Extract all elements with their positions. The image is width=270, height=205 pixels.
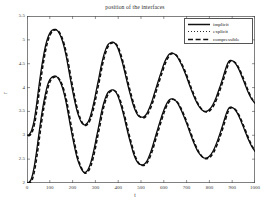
legend-label-compressible: compressible — [213, 37, 239, 42]
legend-item-implicit: implicit — [188, 21, 249, 28]
chart-figure: position of the interfaces 22.533.544.55… — [0, 0, 270, 205]
y-axis-label: r — [2, 92, 8, 94]
legend-swatch-dotted — [188, 28, 210, 35]
x-tick-label: 200 — [63, 185, 83, 190]
y-tick-label: 5 — [9, 37, 25, 42]
x-tick-label: 900 — [222, 185, 242, 190]
x-tick-label: 500 — [131, 185, 151, 190]
legend-label-explicit: explicit — [213, 29, 228, 34]
x-tick-label: 1000 — [245, 185, 265, 190]
y-tick-label: 5.5 — [9, 13, 25, 18]
y-tick-label: 3.5 — [9, 108, 25, 113]
y-tick-label: 2.5 — [9, 156, 25, 161]
legend-item-explicit: explicit — [188, 28, 249, 35]
x-tick-label: 300 — [85, 185, 105, 190]
x-tick-label: 600 — [154, 185, 174, 190]
x-tick-label: 400 — [108, 185, 128, 190]
legend-swatch-solid — [188, 21, 210, 28]
legend[interactable]: implicit explicit compressible — [184, 18, 253, 44]
legend-label-implicit: implicit — [213, 22, 229, 27]
legend-item-compressible: compressible — [188, 36, 249, 43]
x-tick-label: 700 — [177, 185, 197, 190]
y-tick-label: 3 — [9, 132, 25, 137]
chart-title: position of the interfaces — [0, 4, 270, 10]
y-tick-label: 4.5 — [9, 61, 25, 66]
legend-swatch-dashed — [188, 36, 210, 43]
y-tick-label: 4 — [9, 85, 25, 90]
x-tick-label: 0 — [17, 185, 37, 190]
x-tick-label: 800 — [199, 185, 219, 190]
x-tick-label: 100 — [40, 185, 60, 190]
x-axis-label: t — [0, 192, 270, 198]
